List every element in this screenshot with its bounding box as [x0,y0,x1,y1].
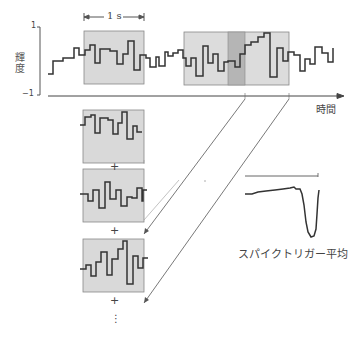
time-axis [48,94,344,99]
diagram-canvas [0,0,355,337]
spike-triggered-average [245,173,319,237]
y-tick-max: 1 [31,21,36,30]
plus-sign-3: + [110,294,119,307]
plus-sign-1: + [110,160,119,173]
plus-sign-2: + [110,224,119,237]
time-axis-label: 時間 [316,101,336,116]
y-axis [37,27,40,95]
stimulus-window-1 [84,31,144,84]
y-tick-min: −1 [22,89,34,98]
spike-triggered-average-label: スパイクトリガー平均 [238,245,348,261]
scale-bar-label: 1 s [107,10,122,21]
extracted-window-1 [83,110,144,163]
overlap-highlight [228,32,245,85]
extracted-window-3 [83,239,144,292]
y-axis-label: 輝度 [14,52,26,74]
extracted-window-2 [83,169,144,222]
mapping-lines [144,99,289,303]
ellipsis: ⋮ [111,316,121,321]
